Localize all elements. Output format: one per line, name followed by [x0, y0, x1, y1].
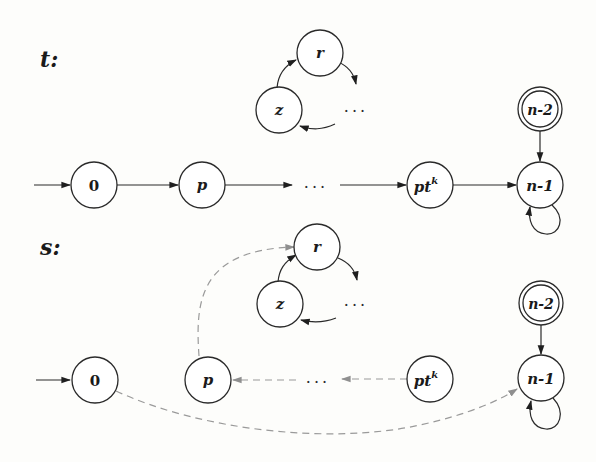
node-p: p: [179, 162, 225, 208]
svg-text:z: z: [274, 101, 284, 119]
self-loop-n1: [530, 205, 560, 234]
node-n2-accepting: n-2: [518, 87, 562, 131]
svg-text:p: p: [203, 371, 214, 389]
node-z: z: [257, 281, 303, 327]
node-z: z: [256, 87, 302, 133]
section-label-s: s:: [39, 234, 61, 260]
svg-text:0: 0: [90, 372, 100, 390]
node-r: r: [297, 30, 343, 76]
svg-text:r: r: [316, 44, 325, 62]
edge-r-ellipsis: [338, 62, 356, 84]
edge-ellipsis-z: [301, 318, 336, 322]
edge-z-r: [278, 255, 296, 282]
edge-r-ellipsis: [338, 258, 357, 280]
svg-text:z: z: [275, 295, 285, 313]
svg-text:n-1: n-1: [526, 177, 554, 195]
node-ptk: ptk: [407, 162, 453, 208]
ellipsis-cycle: ···: [344, 102, 368, 121]
section-label-t: t:: [40, 46, 58, 72]
section-s: s: 0 p ··· ptk n-1: [36, 224, 564, 434]
dashed-edge-0-n1: [116, 389, 517, 434]
edge-ellipsis-z: [300, 124, 335, 129]
svg-text:n-2: n-2: [527, 102, 553, 118]
svg-text:n-2: n-2: [528, 296, 554, 312]
svg-text:p: p: [197, 176, 208, 194]
node-0: 0: [71, 162, 117, 208]
self-loop-n1: [530, 398, 560, 429]
svg-text:0: 0: [89, 177, 99, 195]
node-0: 0: [72, 357, 118, 403]
ellipsis-cycle: ···: [344, 296, 368, 315]
svg-text:n-1: n-1: [527, 370, 555, 388]
node-n1: n-1: [518, 355, 564, 401]
node-ptk: ptk: [407, 356, 453, 402]
node-p: p: [185, 357, 231, 403]
ellipsis-path: ···: [306, 373, 330, 392]
node-n1: n-1: [517, 162, 563, 208]
edge-z-r: [277, 60, 296, 88]
node-n2-accepting: n-2: [519, 281, 563, 325]
section-t: t: 0 p ··· ptk n-1: [34, 30, 563, 234]
ellipsis-path: ···: [304, 178, 328, 197]
svg-text:r: r: [313, 238, 322, 256]
node-r: r: [294, 224, 340, 270]
automaton-diagram: t: 0 p ··· ptk n-1: [0, 0, 596, 462]
